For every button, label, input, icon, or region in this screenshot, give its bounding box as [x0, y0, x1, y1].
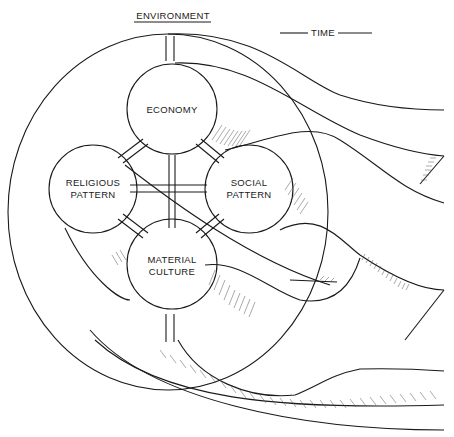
economy-label: ECONOMY — [146, 104, 198, 115]
social-label-line1: SOCIAL — [231, 177, 268, 188]
node-religious-pattern: RELIGIOUS PATTERN — [49, 145, 137, 233]
religious-label-line1: RELIGIOUS — [66, 177, 120, 188]
material-label-line2: CULTURE — [149, 266, 195, 277]
environment-label: ENVIRONMENT — [136, 10, 210, 21]
node-social-pattern: SOCIAL PATTERN — [205, 145, 293, 233]
time-label: TIME — [311, 27, 335, 38]
social-label-line2: PATTERN — [226, 189, 271, 200]
religious-label-line2: PATTERN — [70, 189, 115, 200]
time-ribbons — [65, 34, 444, 430]
node-material-culture: MATERIAL CULTURE — [127, 219, 217, 309]
material-label-line1: MATERIAL — [147, 254, 196, 265]
culture-system-diagram: ENVIRONMENT TIME ECONOMY — [0, 0, 454, 437]
